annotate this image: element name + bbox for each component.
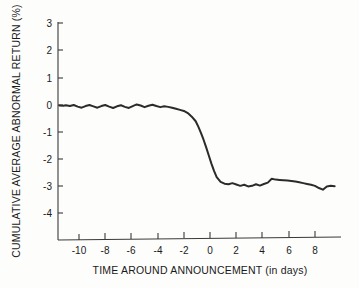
figure-container: 3 2 1 0 -1 -2 -3 -4 -10 -8 -6 -4 — [0, 0, 359, 288]
x-axis-title: TIME AROUND ANNOUNCEMENT (in days) — [93, 264, 308, 276]
data-series-line — [59, 104, 334, 189]
x-tick-label: -8 — [101, 245, 110, 256]
x-tick-label: 8 — [312, 245, 318, 256]
x-tick-label: -2 — [180, 245, 189, 256]
x-tick-label: 2 — [233, 245, 239, 256]
x-axis-line — [58, 237, 341, 240]
y-tick-label: -1 — [43, 127, 52, 138]
y-tick-label: 3 — [46, 18, 52, 29]
x-axis-tick-labels: -10 -8 -6 -4 -2 0 2 4 6 8 — [72, 245, 318, 256]
chart-canvas: 3 2 1 0 -1 -2 -3 -4 -10 -8 -6 -4 — [0, 0, 359, 288]
x-tick-label: -4 — [154, 245, 163, 256]
y-tick-label: -4 — [43, 208, 52, 219]
x-tick-label: -6 — [127, 245, 136, 256]
y-tick-label: 1 — [46, 73, 52, 84]
x-tick-label: -10 — [72, 245, 87, 256]
y-tick-label: 2 — [46, 45, 52, 56]
y-axis-tick-labels: 3 2 1 0 -1 -2 -3 -4 — [43, 18, 52, 219]
x-tick-label: 0 — [207, 245, 213, 256]
y-tick-label: -2 — [43, 154, 52, 165]
y-axis-ticks — [58, 23, 63, 213]
y-axis-title: CUMULATIVE AVERAGE ABNORMAL RETURN (%) — [10, 4, 22, 258]
y-tick-label: 0 — [46, 100, 52, 111]
y-tick-label: -3 — [43, 181, 52, 192]
x-tick-label: 4 — [259, 245, 265, 256]
x-tick-label: 6 — [286, 245, 292, 256]
